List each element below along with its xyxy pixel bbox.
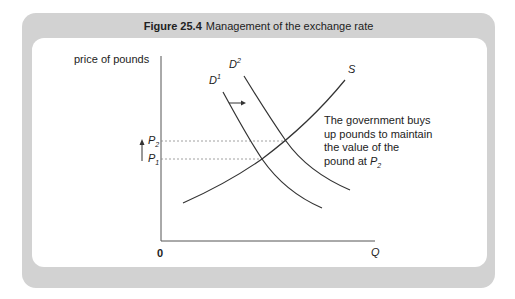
x-axis-label: Q bbox=[371, 246, 380, 258]
up-arrow-icon bbox=[140, 139, 145, 145]
d2-label: D2 bbox=[229, 57, 241, 70]
right-arrow-icon bbox=[241, 101, 246, 106]
government-annotation: The government buys up pounds to maintai… bbox=[324, 114, 454, 172]
demand-curve-d1 bbox=[223, 92, 322, 208]
p1-label: P1 bbox=[148, 152, 159, 166]
s-label: S bbox=[348, 63, 355, 75]
supply-curve-s bbox=[183, 80, 345, 203]
d1-label: D1 bbox=[209, 73, 221, 86]
p2-label: P2 bbox=[148, 134, 159, 148]
y-axis-label: price of pounds bbox=[74, 53, 149, 65]
origin-label: 0 bbox=[157, 247, 163, 259]
